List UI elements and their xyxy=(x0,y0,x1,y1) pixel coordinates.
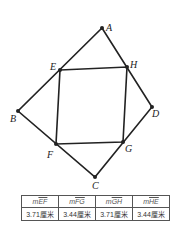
value-m-gh: 3.71厘米 xyxy=(96,208,133,221)
measurement-header-row: mEF mFG mGH mHE xyxy=(22,196,170,208)
geometry-figure: A B C D E F G H xyxy=(0,0,176,190)
header-m-fg: mFG xyxy=(59,196,96,208)
label-f: F xyxy=(46,149,54,160)
label-c: C xyxy=(92,180,99,190)
value-m-fg: 3.44厘米 xyxy=(59,208,96,221)
vertex-points xyxy=(16,26,154,179)
point-e[interactable] xyxy=(58,68,62,72)
value-m-he: 3.44厘米 xyxy=(133,208,170,221)
label-d: D xyxy=(151,108,160,119)
label-h: H xyxy=(129,59,138,70)
point-c[interactable] xyxy=(93,175,97,179)
header-m-gh: mGH xyxy=(96,196,133,208)
header-m-he: mHE xyxy=(133,196,170,208)
measurement-value-row: 3.71厘米 3.44厘米 3.71厘米 3.44厘米 xyxy=(22,208,170,221)
point-b[interactable] xyxy=(16,109,20,113)
header-m-ef: mEF xyxy=(22,196,59,208)
label-b: B xyxy=(10,113,16,124)
measurement-table: mEF mFG mGH mHE 3.71厘米 3.44厘米 3.71厘米 3.4… xyxy=(21,195,170,221)
label-e: E xyxy=(49,61,56,72)
point-h[interactable] xyxy=(125,65,129,69)
point-f[interactable] xyxy=(54,142,58,146)
label-g: G xyxy=(125,143,132,154)
label-a: A xyxy=(105,22,113,33)
value-m-ef: 3.71厘米 xyxy=(22,208,59,221)
inner-quadrilateral-efgh xyxy=(56,67,127,144)
point-a[interactable] xyxy=(100,26,104,30)
outer-quadrilateral-abcd xyxy=(18,28,152,177)
